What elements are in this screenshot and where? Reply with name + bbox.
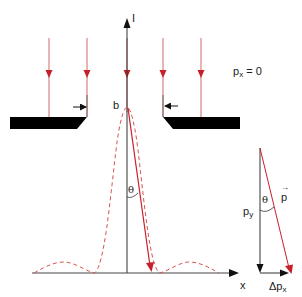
px-zero-label: px = 0 xyxy=(233,66,262,79)
py-label: py xyxy=(243,206,253,219)
ray-arrowhead-icon xyxy=(84,70,91,78)
p-vector-symbol: p xyxy=(281,192,287,203)
diffraction-diagram xyxy=(0,0,302,297)
x-axis-arrow-icon xyxy=(229,269,239,277)
p-vector xyxy=(260,148,289,268)
dpx-arrowhead-icon xyxy=(280,270,289,277)
p-vector-label: p xyxy=(281,192,287,203)
theta-label: θ xyxy=(128,185,134,195)
ray-arrowhead-icon xyxy=(198,70,205,78)
py-arrowhead-icon xyxy=(257,264,264,273)
px-equals: = 0 xyxy=(243,65,262,77)
dpx-label: Δpx xyxy=(269,281,286,294)
diffracted-ray-arrowhead-icon xyxy=(146,262,154,272)
dpx-symbol: Δp xyxy=(269,280,282,292)
intensity-axis-arrow-icon xyxy=(124,18,131,28)
momentum-triangle xyxy=(257,148,294,277)
slit-width-label: b xyxy=(113,100,119,111)
ray-arrowhead-icon xyxy=(46,70,53,78)
incident-rays xyxy=(46,38,205,117)
dpx-subscript: x xyxy=(282,285,286,294)
intensity-axis-label: I xyxy=(132,13,135,24)
left-slit-plate xyxy=(10,117,87,129)
ray-arrowhead-icon xyxy=(160,70,167,78)
theta-triangle-label: θ xyxy=(262,195,268,205)
theta-triangle-arc xyxy=(260,207,274,211)
right-slit-plate xyxy=(163,117,240,129)
py-subscript: y xyxy=(249,210,253,219)
x-axis-label: x xyxy=(240,280,246,291)
